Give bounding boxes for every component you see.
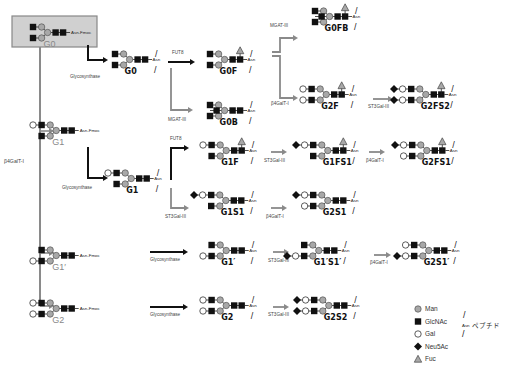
enzyme-label: Glycosynthase [150, 257, 181, 262]
enzyme-label: ST3Gal-III [268, 312, 289, 317]
enzyme-label: ST3Gal-III [368, 104, 389, 109]
man-icon [120, 51, 126, 57]
neu5ac-icon [293, 296, 301, 304]
compound-name: G1FS1 [323, 158, 352, 167]
glcnac-icon [69, 305, 75, 311]
gal-icon [300, 86, 306, 92]
enzyme-label: β4GalT-I [271, 101, 289, 106]
legend-item-fuc: Fuc [414, 355, 436, 362]
reaction-arrow: FUT8 [170, 136, 189, 180]
legend-asn-label: Asn [462, 323, 470, 328]
glcnac-icon [415, 318, 421, 324]
glcnac-icon [408, 86, 414, 92]
enzyme-label: ST3Gal-III [264, 158, 285, 163]
man-icon [415, 306, 421, 312]
svg-text:/: / [462, 329, 465, 339]
glcnac-icon [38, 122, 44, 128]
peptide-bracket-bottom: / [451, 156, 454, 166]
glcnac-icon [30, 35, 36, 41]
legend-item-neu5ac: Neu5Ac [414, 343, 449, 351]
peptide-bracket-bottom: / [351, 100, 354, 110]
gal-icon [402, 242, 408, 248]
glcnac-icon [208, 253, 214, 259]
enzyme-label: ST3Gal-III [165, 214, 186, 219]
peptide-bracket-bottom: / [250, 206, 253, 216]
gal-icon [301, 142, 307, 148]
compound-name: G1′ [221, 258, 235, 267]
glcnac-icon [134, 56, 140, 62]
gal-icon [402, 253, 408, 259]
neu5ac-icon [414, 343, 422, 351]
man-icon [47, 122, 53, 128]
peptide-bracket-bottom: / [154, 65, 157, 75]
neu5ac-icon [292, 191, 300, 199]
man-icon [310, 242, 316, 248]
arrowhead-icon [282, 149, 287, 155]
glcnac-icon [441, 247, 447, 253]
man-icon [423, 91, 429, 97]
glycan-g2fs1: Asn//G2FS1 [391, 138, 458, 167]
glcnac-icon [229, 56, 235, 62]
man-icon [319, 142, 325, 148]
arrowhead-icon [293, 95, 298, 101]
man-icon [420, 242, 426, 248]
neu5ac-icon [293, 307, 301, 315]
arrowhead-icon [184, 205, 189, 211]
glcnac-icon [208, 203, 214, 209]
peptide-bracket-bottom: / [249, 65, 252, 75]
reaction-arrow: ST3Gal-III [368, 96, 393, 109]
peptide-bracket-bottom: / [354, 22, 357, 32]
legend-item-man: Man [415, 305, 438, 312]
gal-icon [30, 300, 36, 306]
glcnac-icon [310, 192, 316, 198]
legend-label: Man [425, 305, 438, 312]
glcnac-icon [408, 97, 414, 103]
glycan-g1s1: Asn//G1S1 [190, 190, 257, 218]
glcnac-icon [136, 175, 142, 181]
fuc-icon [438, 82, 445, 89]
arrowhead-icon [183, 249, 188, 255]
gal-icon [399, 86, 405, 92]
glcnac-icon [52, 29, 58, 35]
glcnac-icon [231, 197, 237, 203]
glcnac-icon [308, 97, 314, 103]
glcnac-icon [312, 19, 318, 25]
glcnac-icon [331, 91, 337, 97]
man-icon [215, 51, 221, 57]
compound-name: G1F [221, 158, 239, 167]
glcnac-icon [237, 107, 243, 113]
peptide-bracket-bottom: / [251, 311, 254, 321]
reaction-arrow: Glycosynthase [62, 147, 108, 190]
glcnac-icon [112, 51, 118, 57]
glcnac-icon [38, 247, 44, 253]
glcnac-icon [231, 147, 237, 153]
glycan-synthesis-diagram: β4GalT-I GlycosynthaseFUT8MGAT-IIIMGAT-I… [0, 0, 515, 369]
reaction-arrow: β4GalT-I [271, 56, 298, 106]
enzyme-label: β4GalT-I [266, 214, 284, 219]
man-icon [53, 252, 59, 258]
glcnac-icon [318, 13, 324, 19]
legend-peptide-label: ペプチド [472, 322, 500, 329]
man-icon [38, 24, 44, 30]
neu5ac-icon [390, 85, 398, 93]
glcnac-icon [308, 86, 314, 92]
glcnac-icon [60, 29, 66, 35]
tail-label: Asn-Fmoc [80, 128, 101, 133]
glcnac-icon [38, 133, 44, 139]
fuc-icon [341, 4, 348, 11]
compound-name: G0FB [325, 24, 349, 33]
gal-icon [30, 311, 36, 317]
glycan-g0: Asn//G0 [112, 49, 161, 77]
gal-icon [30, 122, 36, 128]
neu5ac-icon [190, 191, 198, 199]
svg-text:/: / [463, 310, 466, 320]
reaction-arrow: Glycosynthase [70, 45, 108, 79]
man-icon [53, 127, 59, 133]
glycan-g0b: Asn//G0B [207, 100, 256, 128]
glcnac-icon [434, 247, 440, 253]
gal-icon [30, 258, 36, 264]
glcnac-icon [432, 147, 438, 153]
gal-icon [302, 308, 308, 314]
man-icon [325, 197, 331, 203]
beta4galt-trunk-layer: β4GalT-I [4, 47, 54, 309]
